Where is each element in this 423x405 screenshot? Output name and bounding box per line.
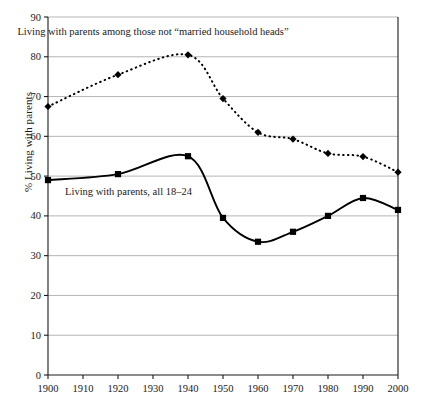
marker-diamond-1900	[44, 103, 51, 110]
x-tick-label-1920: 1920	[108, 383, 129, 394]
marker-square-1990	[360, 195, 366, 201]
marker-diamond-1940	[184, 51, 191, 58]
y-tick-label-30: 30	[31, 250, 42, 261]
x-tick-label-1960: 1960	[248, 383, 269, 394]
y-tick-label-20: 20	[31, 290, 42, 301]
marker-diamond-1920	[114, 71, 121, 78]
y-tick-label-10: 10	[31, 330, 42, 341]
marker-square-1940	[185, 153, 191, 159]
x-tick-label-2000: 2000	[388, 383, 409, 394]
marker-diamond-1980	[324, 150, 331, 157]
marker-square-2000	[395, 207, 401, 213]
series-line-1	[48, 155, 398, 242]
y-tick-label-90: 90	[31, 12, 42, 23]
y-tick-marks-group	[44, 17, 48, 375]
y-tick-label-0: 0	[36, 370, 41, 381]
annotation-lower: Living with parents, all 18–24	[65, 186, 193, 197]
x-tick-marks-group	[48, 375, 398, 379]
marker-square-1960	[255, 239, 261, 245]
marker-square-1920	[115, 171, 121, 177]
y-tick-label-60: 60	[31, 131, 42, 142]
chart-container: % Living with parents 010203040506070809…	[0, 0, 423, 405]
annotations-group: Living with parents among those not “mar…	[17, 26, 289, 197]
x-tick-label-1970: 1970	[283, 383, 304, 394]
line-chart-plot: 0102030405060708090 19001910192019301940…	[0, 0, 423, 405]
series-line-0	[48, 54, 398, 172]
marker-diamond-1960	[254, 129, 261, 136]
x-tick-label-1940: 1940	[178, 383, 199, 394]
marker-diamond-2000	[394, 169, 401, 176]
x-tick-label-1910: 1910	[73, 383, 94, 394]
x-tick-label-1930: 1930	[143, 383, 164, 394]
y-tick-label-40: 40	[31, 210, 42, 221]
marker-square-1950	[220, 215, 226, 221]
x-tick-label-1990: 1990	[353, 383, 374, 394]
marker-square-1980	[325, 213, 331, 219]
x-tick-label-1950: 1950	[213, 383, 234, 394]
y-tick-label-50: 50	[31, 171, 42, 182]
x-tick-label-1900: 1900	[38, 383, 59, 394]
y-tick-labels-group: 0102030405060708090	[31, 12, 42, 381]
marker-square-1900	[45, 177, 51, 183]
annotation-upper: Living with parents among those not “mar…	[17, 26, 289, 37]
marker-square-1970	[290, 229, 296, 235]
y-tick-label-70: 70	[31, 91, 42, 102]
x-tick-labels-group: 1900191019201930194019501960197019801990…	[38, 383, 409, 394]
x-tick-label-1980: 1980	[318, 383, 339, 394]
y-tick-label-80: 80	[31, 51, 42, 62]
marker-diamond-1990	[359, 153, 366, 160]
